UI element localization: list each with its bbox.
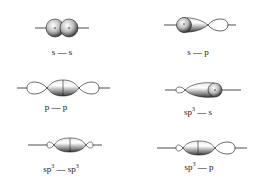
- sp3-p-overlap: [157, 141, 247, 155]
- label-s-p: s — p: [187, 46, 209, 57]
- label-p-p: p — p: [45, 101, 68, 112]
- label-sp3-p: sp3 — p: [184, 161, 213, 172]
- label-sp3-s: sp3 — s: [184, 106, 212, 117]
- sp3-sp3-overlap: [28, 138, 102, 152]
- p-p-overlap: [17, 80, 110, 96]
- label-sp3-sp3: sp3 — sp3: [43, 163, 79, 174]
- sp3-s-overlap: [165, 83, 241, 98]
- s-p-overlap: [164, 18, 236, 33]
- label-s-s: s — s: [52, 46, 73, 57]
- s-s-overlap: [35, 19, 89, 37]
- orbital-overlap-diagram: [0, 0, 256, 195]
